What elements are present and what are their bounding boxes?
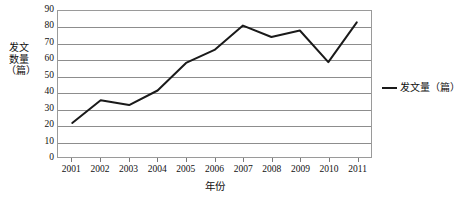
plot-area	[57, 10, 372, 158]
x-axis-tick-labels: 2001200220032004200520062007200820092010…	[57, 163, 372, 177]
legend-line-swatch-icon	[382, 87, 397, 89]
x-axis-tick-mark	[215, 158, 216, 162]
x-axis-title: 年份	[57, 178, 372, 193]
x-axis-tick-mark	[186, 158, 187, 162]
x-axis-tick-mark	[100, 158, 101, 162]
x-axis-tick-label: 2011	[338, 163, 378, 175]
line-chart-figure: 发文数量（篇） 0102030405060708090 200120022003…	[0, 0, 462, 200]
y-axis-title: 发文数量（篇）	[6, 42, 32, 77]
x-axis-tick-mark	[300, 158, 301, 162]
x-axis-tick-mark	[129, 158, 130, 162]
x-axis-tick-mark	[358, 158, 359, 162]
y-axis-tick-label: 10	[30, 137, 54, 147]
y-axis-tick-label: 50	[30, 71, 54, 81]
series-line-fawenliang	[72, 22, 357, 123]
chart-legend: 发文量（篇）	[382, 82, 460, 93]
x-axis-tick-mark	[157, 158, 158, 162]
y-axis-tick-label: 80	[30, 22, 54, 32]
x-axis-tick-mark	[329, 158, 330, 162]
y-axis-tick-label: 70	[30, 38, 54, 48]
y-axis-tick-label: 90	[30, 5, 54, 15]
y-axis-tick-label: 60	[30, 55, 54, 65]
series-line-chart	[58, 11, 371, 157]
legend-item-label: 发文量（篇）	[400, 82, 460, 93]
y-axis-tick-label: 20	[30, 120, 54, 130]
y-axis-tick-label: 0	[30, 153, 54, 163]
y-axis-tick-label: 40	[30, 87, 54, 97]
x-axis-tick-mark	[243, 158, 244, 162]
x-axis-tick-mark	[71, 158, 72, 162]
x-axis-tick-marks	[57, 158, 372, 162]
y-axis-tick-label: 30	[30, 104, 54, 114]
x-axis-tick-mark	[272, 158, 273, 162]
